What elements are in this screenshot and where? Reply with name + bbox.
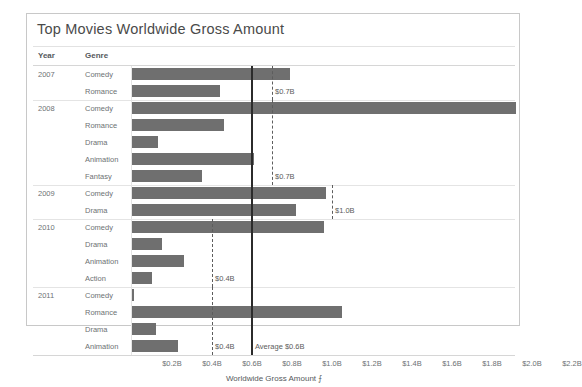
x-axis-tick-label: $0.4B (202, 359, 222, 368)
chart-plot-area: 2007ComedyRomance$0.7B2008ComedyRomanceD… (33, 66, 515, 355)
x-axis-tick-label: $1.0B (322, 359, 342, 368)
x-axis-tick-label: $0.6B (242, 359, 262, 368)
chart-row[interactable]: Drama (33, 134, 515, 151)
x-axis-tick-label: $2.0B (522, 359, 542, 368)
reference-line (212, 219, 213, 287)
value-bar[interactable] (132, 289, 134, 301)
chart-row[interactable]: 2008Comedy (33, 100, 515, 117)
x-axis-tick-label: $1.8B (482, 359, 502, 368)
x-axis-tick-label: $1.6B (442, 359, 462, 368)
reference-line-label: $0.7B (275, 172, 295, 181)
chart-row[interactable]: Animation (33, 253, 515, 270)
row-genre-label: Animation (85, 155, 118, 164)
reference-line (272, 66, 273, 100)
row-genre-label: Animation (85, 257, 118, 266)
chart-row[interactable]: Romance (33, 117, 515, 134)
value-bar[interactable] (132, 68, 290, 80)
row-genre-label: Drama (85, 240, 108, 249)
value-bar[interactable] (132, 272, 152, 284)
row-genre-label: Drama (85, 138, 108, 147)
reference-line-label: $0.4B (215, 274, 235, 283)
row-genre-label: Romance (85, 121, 117, 130)
row-genre-label: Drama (85, 325, 108, 334)
reference-line (272, 100, 273, 185)
chart-row[interactable]: 2007Comedy (33, 66, 515, 83)
reference-line-label: $0.4B (215, 342, 235, 351)
value-bar[interactable] (132, 170, 202, 182)
row-genre-label: Comedy (85, 104, 113, 113)
row-genre-label: Comedy (85, 291, 113, 300)
x-axis: Worldwide Gross Amount⨍ $0.2B$0.4B$0.6B$… (33, 355, 515, 387)
row-genre-label: Fantasy (85, 172, 112, 181)
x-axis-title-label: Worldwide Gross Amount (226, 374, 316, 383)
value-bar[interactable] (132, 306, 342, 318)
row-genre-label: Comedy (85, 223, 113, 232)
row-genre-label: Romance (85, 308, 117, 317)
row-year-label: 2011 (38, 291, 54, 300)
row-genre-label: Comedy (85, 189, 113, 198)
x-axis-title: Worldwide Gross Amount⨍ (33, 374, 515, 383)
row-genre-label: Comedy (85, 70, 113, 79)
sort-descending-icon[interactable]: ⨍ (318, 374, 322, 383)
reference-line (212, 287, 213, 355)
row-genre-label: Romance (85, 87, 117, 96)
reference-line-label: $0.7B (275, 87, 295, 96)
value-bar[interactable] (132, 187, 326, 199)
chart-row[interactable]: Romance (33, 83, 515, 100)
x-axis-tick-label: $1.2B (362, 359, 382, 368)
visualization-frame: Top Movies Worldwide Gross Amount Year G… (26, 13, 520, 326)
x-axis-tick-label: $2.2B (562, 359, 582, 368)
chart-row[interactable]: Drama (33, 202, 515, 219)
row-year-label: 2007 (38, 70, 55, 79)
x-axis-tick-label: $1.4B (402, 359, 422, 368)
value-bar[interactable] (132, 153, 254, 165)
column-header-genre: Genre (85, 51, 108, 60)
reference-line (332, 185, 333, 219)
value-bar[interactable] (132, 119, 224, 131)
value-bar[interactable] (132, 255, 184, 267)
value-bar[interactable] (132, 221, 324, 233)
x-axis-tick-label: $0.2B (162, 359, 182, 368)
value-bar[interactable] (132, 238, 162, 250)
value-bar[interactable] (132, 136, 158, 148)
value-bar[interactable] (132, 102, 516, 114)
value-bar[interactable] (132, 340, 178, 352)
chart-row[interactable]: Fantasy (33, 168, 515, 185)
chart-row[interactable]: Action (33, 270, 515, 287)
chart-row[interactable]: 2010Comedy (33, 219, 515, 236)
chart-row[interactable]: Animation (33, 151, 515, 168)
chart-row[interactable]: 2009Comedy (33, 185, 515, 202)
column-header-row: Year Genre (33, 51, 515, 65)
row-year-label: 2010 (38, 223, 55, 232)
value-bar[interactable] (132, 204, 296, 216)
chart-row[interactable]: Romance (33, 304, 515, 321)
row-year-label: 2008 (38, 104, 55, 113)
value-bar[interactable] (132, 85, 220, 97)
row-genre-label: Animation (85, 342, 118, 351)
chart-row[interactable]: Drama (33, 236, 515, 253)
column-header-year: Year (38, 51, 55, 60)
chart-row[interactable]: 2011Comedy (33, 287, 515, 304)
row-year-label: 2009 (38, 189, 55, 198)
chart-row[interactable]: Drama (33, 321, 515, 338)
axis-divider (33, 355, 515, 356)
average-reference-line-label: Average $0.6B (255, 342, 304, 351)
row-genre-label: Action (85, 274, 106, 283)
row-genre-label: Drama (85, 206, 108, 215)
x-axis-tick-label: $0.8B (282, 359, 302, 368)
page-title: Top Movies Worldwide Gross Amount (37, 21, 284, 37)
value-bar[interactable] (132, 323, 156, 335)
average-reference-line (251, 66, 253, 355)
reference-line-label: $1.0B (335, 206, 355, 215)
title-divider (33, 46, 515, 47)
